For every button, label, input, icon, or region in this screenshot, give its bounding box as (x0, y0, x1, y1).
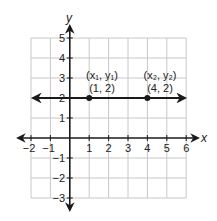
x-tick-label: 3 (125, 142, 131, 154)
point-1-numeric-label: (1, 2) (89, 82, 115, 94)
y-tick-label: −1 (52, 152, 65, 164)
x-tick-label: 4 (144, 142, 150, 154)
y-tick-label: 3 (59, 72, 65, 84)
x-tick-label: 1 (86, 142, 92, 154)
x-tick-labels: −2 −1 1 2 3 4 5 6 (23, 142, 190, 154)
coordinate-plane: x y −2 −1 1 2 3 4 5 6 5 4 3 2 1 −1 −2 −3… (0, 0, 217, 221)
x-tick-label: 2 (106, 142, 112, 154)
point-2-numeric-label: (4, 2) (147, 82, 173, 94)
x-tick-label: −2 (23, 142, 36, 154)
y-tick-label: −2 (52, 172, 65, 184)
x-tick-label: 6 (183, 142, 189, 154)
point-1-marker (86, 95, 92, 101)
y-tick-label: −3 (52, 192, 65, 204)
y-tick-label: 5 (59, 32, 65, 44)
x-tick-label: 5 (164, 142, 170, 154)
y-axis-label: y (65, 11, 73, 25)
y-tick-label: 1 (59, 112, 65, 124)
x-axis-label: x (200, 131, 208, 145)
point-2-marker (144, 95, 150, 101)
y-tick-label: 4 (59, 52, 65, 64)
point-1-symbolic-label: (x₁, y₁) (86, 69, 118, 81)
point-2-symbolic-label: (x₂, y₂) (144, 69, 177, 81)
